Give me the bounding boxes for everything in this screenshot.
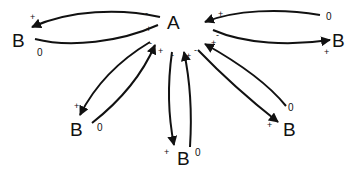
zero-label-b-bottom: 0 (195, 147, 201, 158)
node-b-left: B (12, 30, 25, 51)
plus-mark: + (267, 120, 272, 130)
arrow-a-to-b-left (32, 12, 160, 27)
node-b-right: B (332, 30, 345, 51)
node-a: A (167, 12, 180, 33)
plus-mark: + (324, 47, 329, 57)
arrow-b-left-to-a (35, 25, 158, 43)
node-b-lower-left: B (70, 119, 83, 140)
zero-label-b-right: 0 (326, 11, 332, 22)
minus-mark: - (149, 38, 152, 48)
node-b-bottom: B (177, 148, 190, 169)
plus-mark: + (30, 12, 35, 22)
minus-mark: - (145, 8, 148, 18)
plus-mark: + (211, 38, 216, 48)
plus-mark: + (158, 46, 163, 56)
zero-label-b-lower-left: 0 (97, 122, 103, 133)
zero-label-b-left: 0 (37, 47, 43, 58)
arrow-b-bottom-to-a (184, 52, 191, 147)
minus-mark: - (171, 50, 174, 60)
arrow-a-to-b-bottom (169, 52, 174, 145)
minus-mark: - (216, 30, 219, 40)
arrow-b-lower-right-to-a (205, 44, 286, 106)
plus-mark: + (164, 147, 169, 157)
minus-mark: - (194, 45, 197, 55)
plus-mark: + (186, 51, 191, 61)
plus-mark: + (74, 101, 79, 111)
zero-label-b-lower-right: 0 (288, 102, 294, 113)
feedback-diagram: A B 0 + - + B 0 + - + B 0 + - + B 0 + - … (0, 0, 362, 179)
node-b-lower-right: B (283, 119, 296, 140)
arrow-a-to-b-right (213, 30, 330, 43)
plus-mark: + (146, 24, 151, 34)
plus-mark: + (218, 9, 223, 19)
